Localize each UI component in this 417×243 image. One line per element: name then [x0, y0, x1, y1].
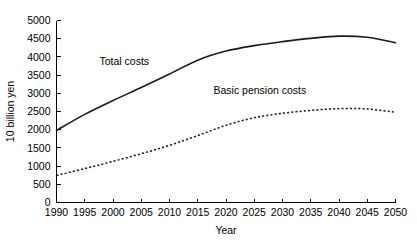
x-tick-label: 2010	[158, 206, 182, 218]
y-tick-label: 2500	[27, 105, 51, 117]
y-tick-label: 4500	[27, 32, 51, 44]
axis-lines	[57, 21, 396, 203]
y-tick-label: 4000	[27, 51, 51, 63]
line-chart: 0500100015002000250030003500400045005000…	[0, 0, 417, 243]
x-tick-label: 2015	[186, 206, 210, 218]
x-axis-title: Year	[215, 224, 237, 236]
x-axis-tick-labels: 1990199520002005201020152020202520302035…	[45, 206, 408, 218]
x-tick-label: 2040	[327, 206, 351, 218]
y-tick-label: 1000	[27, 160, 51, 172]
x-tick-label: 2025	[243, 206, 267, 218]
series-basic-pension-costs-line	[57, 108, 396, 175]
x-tick-label: 2005	[130, 206, 154, 218]
x-tick-label: 1990	[45, 206, 69, 218]
x-tick-label: 2020	[214, 206, 238, 218]
series-label-basic-pension-costs: Basic pension costs	[213, 84, 306, 96]
x-tick-label: 2050	[384, 206, 408, 218]
x-tick-label: 2035	[299, 206, 323, 218]
chart-container: 0500100015002000250030003500400045005000…	[0, 0, 417, 243]
y-axis-title: 10 billion yen	[4, 81, 16, 142]
y-tick-label: 2000	[27, 123, 51, 135]
x-tick-label: 1995	[73, 206, 97, 218]
y-tick-label: 1500	[27, 142, 51, 154]
y-tick-label: 3500	[27, 69, 51, 81]
x-tick-label: 2030	[271, 206, 295, 218]
x-tick-label: 2045	[356, 206, 380, 218]
y-tick-label: 5000	[27, 14, 51, 26]
x-tick-label: 2000	[101, 206, 125, 218]
y-axis-tick-labels: 0500100015002000250030003500400045005000	[27, 14, 51, 208]
series-label-total-costs: Total costs	[99, 55, 149, 67]
y-tick-label: 3000	[27, 87, 51, 99]
y-tick-label: 500	[33, 178, 51, 190]
axis-tick-marks	[57, 21, 396, 203]
